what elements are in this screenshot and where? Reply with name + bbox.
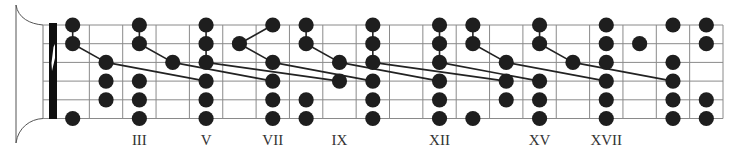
note-dot <box>432 17 447 32</box>
fret-markers: IIIVVIIIXXIIXVXVII <box>132 132 622 148</box>
note-dot <box>98 74 113 89</box>
note-dot <box>165 55 180 70</box>
note-dot <box>132 74 147 89</box>
nut <box>49 23 57 119</box>
headstock-outline <box>16 5 43 143</box>
note-dot <box>198 36 213 51</box>
note-dot <box>198 111 213 126</box>
note-dot <box>365 36 380 51</box>
fret-lines <box>89 25 723 119</box>
note-dot <box>699 36 714 51</box>
note-dot <box>365 92 380 107</box>
note-dot <box>98 92 113 107</box>
note-dot <box>465 36 480 51</box>
note-dot <box>532 111 547 126</box>
note-dot <box>699 17 714 32</box>
note-dot <box>565 55 580 70</box>
note-dot <box>599 111 614 126</box>
note-dot <box>365 111 380 126</box>
fret-marker-label: V <box>201 132 212 148</box>
note-dot <box>65 17 80 32</box>
note-dot <box>98 55 113 70</box>
note-dot <box>299 92 314 107</box>
note-dot <box>599 55 614 70</box>
note-dot <box>332 55 347 70</box>
note-dot <box>599 36 614 51</box>
note-dot <box>365 74 380 89</box>
note-dot <box>432 111 447 126</box>
note-dot <box>132 17 147 32</box>
note-dot <box>432 92 447 107</box>
note-dot <box>499 92 514 107</box>
note-dot <box>198 92 213 107</box>
fret-marker-label: VII <box>262 132 283 148</box>
nut-bar <box>49 23 57 119</box>
note-dot <box>198 17 213 32</box>
note-dot <box>365 55 380 70</box>
note-dot <box>299 111 314 126</box>
note-dot <box>499 74 514 89</box>
note-dot <box>532 74 547 89</box>
note-dot <box>132 36 147 51</box>
note-dot <box>465 17 480 32</box>
note-dot <box>665 17 680 32</box>
note-dot <box>265 92 280 107</box>
note-dot <box>265 74 280 89</box>
note-dot <box>299 36 314 51</box>
connector-lines <box>73 25 673 81</box>
note-dot <box>665 74 680 89</box>
fret-marker-label: XVII <box>590 132 622 148</box>
note-dot <box>299 17 314 32</box>
note-dot <box>65 111 80 126</box>
note-dot <box>198 74 213 89</box>
note-dot <box>465 111 480 126</box>
note-dot <box>532 92 547 107</box>
fret-marker-label: XII <box>429 132 450 148</box>
note-dot <box>499 55 514 70</box>
note-dot <box>599 74 614 89</box>
fret-marker-label: III <box>132 132 147 148</box>
note-dot <box>198 55 213 70</box>
fret-marker-label: IX <box>332 132 348 148</box>
note-dot <box>265 111 280 126</box>
note-dot <box>365 17 380 32</box>
note-dot <box>665 55 680 70</box>
note-dot <box>432 55 447 70</box>
note-dot <box>699 92 714 107</box>
note-dot <box>599 92 614 107</box>
note-dot <box>332 74 347 89</box>
note-dot <box>132 111 147 126</box>
note-dot <box>532 36 547 51</box>
note-dot <box>599 17 614 32</box>
note-dot <box>265 55 280 70</box>
note-dot <box>432 74 447 89</box>
fret-marker-label: XV <box>529 132 551 148</box>
note-dot <box>232 36 247 51</box>
note-dot <box>699 111 714 126</box>
note-dot <box>665 92 680 107</box>
note-dot <box>665 111 680 126</box>
headstock <box>16 5 43 143</box>
note-dot <box>632 36 647 51</box>
fretboard-diagram: IIIVVIIIXXIIXVXVII <box>0 0 742 158</box>
note-dot <box>65 36 80 51</box>
note-dot <box>532 17 547 32</box>
note-dot <box>265 17 280 32</box>
note-dot <box>132 92 147 107</box>
note-dot <box>432 36 447 51</box>
